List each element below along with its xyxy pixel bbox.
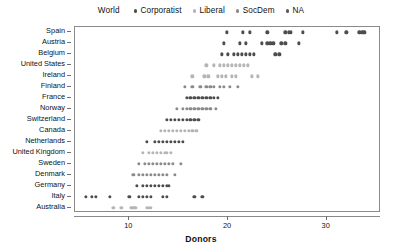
data-point[interactable]: [141, 151, 144, 154]
data-point[interactable]: [169, 118, 172, 121]
data-point[interactable]: [181, 107, 184, 110]
data-point[interactable]: [138, 162, 141, 165]
data-point[interactable]: [266, 31, 269, 34]
data-point[interactable]: [163, 162, 166, 165]
data-point[interactable]: [157, 140, 160, 143]
data-point[interactable]: [213, 64, 216, 67]
data-point[interactable]: [181, 140, 184, 143]
data-point[interactable]: [224, 75, 227, 78]
data-point[interactable]: [183, 86, 186, 89]
data-point[interactable]: [138, 173, 141, 176]
data-point[interactable]: [284, 31, 287, 34]
data-point[interactable]: [234, 75, 237, 78]
data-point[interactable]: [153, 184, 156, 187]
data-point[interactable]: [345, 31, 348, 34]
data-point[interactable]: [244, 42, 247, 45]
data-point[interactable]: [207, 75, 210, 78]
data-point[interactable]: [157, 184, 160, 187]
data-point[interactable]: [216, 96, 219, 99]
data-point[interactable]: [155, 151, 158, 154]
data-point[interactable]: [290, 31, 293, 34]
data-point[interactable]: [185, 96, 188, 99]
data-point[interactable]: [155, 162, 158, 165]
data-point[interactable]: [191, 75, 194, 78]
data-point[interactable]: [256, 75, 259, 78]
data-point[interactable]: [173, 173, 176, 176]
data-point[interactable]: [84, 195, 87, 198]
data-point[interactable]: [216, 75, 219, 78]
data-point[interactable]: [209, 86, 212, 89]
data-point[interactable]: [147, 151, 150, 154]
data-point[interactable]: [161, 184, 164, 187]
data-point[interactable]: [191, 86, 194, 89]
data-point[interactable]: [242, 64, 245, 67]
data-point[interactable]: [171, 129, 174, 132]
data-point[interactable]: [191, 129, 194, 132]
data-point[interactable]: [108, 195, 111, 198]
data-point[interactable]: [218, 86, 221, 89]
data-point[interactable]: [145, 195, 148, 198]
data-point[interactable]: [301, 31, 304, 34]
data-point[interactable]: [141, 184, 144, 187]
data-point[interactable]: [209, 107, 212, 110]
data-point[interactable]: [153, 140, 156, 143]
data-point[interactable]: [149, 173, 152, 176]
data-point[interactable]: [246, 64, 249, 67]
data-point[interactable]: [195, 129, 198, 132]
legend-item-socdem[interactable]: SocDem: [236, 7, 275, 15]
data-point[interactable]: [94, 195, 97, 198]
data-point[interactable]: [181, 118, 184, 121]
data-point[interactable]: [159, 162, 162, 165]
data-point[interactable]: [222, 64, 225, 67]
data-point[interactable]: [132, 173, 135, 176]
data-point[interactable]: [187, 129, 190, 132]
data-point[interactable]: [197, 118, 200, 121]
data-point[interactable]: [120, 206, 123, 209]
data-point[interactable]: [226, 53, 229, 56]
data-point[interactable]: [141, 173, 144, 176]
data-point[interactable]: [159, 129, 162, 132]
data-point[interactable]: [173, 118, 176, 121]
data-point[interactable]: [189, 118, 192, 121]
data-point[interactable]: [201, 195, 204, 198]
data-point[interactable]: [201, 96, 204, 99]
data-point[interactable]: [149, 195, 152, 198]
data-point[interactable]: [232, 53, 235, 56]
data-point[interactable]: [151, 162, 154, 165]
data-point[interactable]: [236, 53, 239, 56]
data-point[interactable]: [145, 184, 148, 187]
data-point[interactable]: [134, 206, 137, 209]
data-point[interactable]: [145, 140, 148, 143]
data-point[interactable]: [213, 96, 216, 99]
data-point[interactable]: [167, 129, 170, 132]
data-point[interactable]: [205, 96, 208, 99]
data-point[interactable]: [278, 53, 281, 56]
data-point[interactable]: [151, 151, 154, 154]
data-point[interactable]: [145, 173, 148, 176]
data-point[interactable]: [272, 42, 275, 45]
data-point[interactable]: [175, 107, 178, 110]
data-point[interactable]: [213, 86, 216, 89]
data-point[interactable]: [136, 184, 139, 187]
data-point[interactable]: [363, 31, 366, 34]
data-point[interactable]: [193, 96, 196, 99]
legend-item-liberal[interactable]: Liberal: [193, 7, 225, 15]
data-point[interactable]: [230, 75, 233, 78]
data-point[interactable]: [201, 107, 204, 110]
data-point[interactable]: [250, 75, 253, 78]
data-point[interactable]: [171, 162, 174, 165]
data-point[interactable]: [161, 140, 164, 143]
data-point[interactable]: [185, 118, 188, 121]
data-point[interactable]: [175, 129, 178, 132]
data-point[interactable]: [238, 64, 241, 67]
data-point[interactable]: [173, 140, 176, 143]
data-point[interactable]: [222, 86, 225, 89]
data-point[interactable]: [112, 206, 115, 209]
data-point[interactable]: [147, 162, 150, 165]
data-point[interactable]: [197, 96, 200, 99]
data-point[interactable]: [335, 31, 338, 34]
data-point[interactable]: [297, 42, 300, 45]
data-point[interactable]: [165, 118, 168, 121]
data-point[interactable]: [203, 75, 206, 78]
data-point[interactable]: [220, 75, 223, 78]
